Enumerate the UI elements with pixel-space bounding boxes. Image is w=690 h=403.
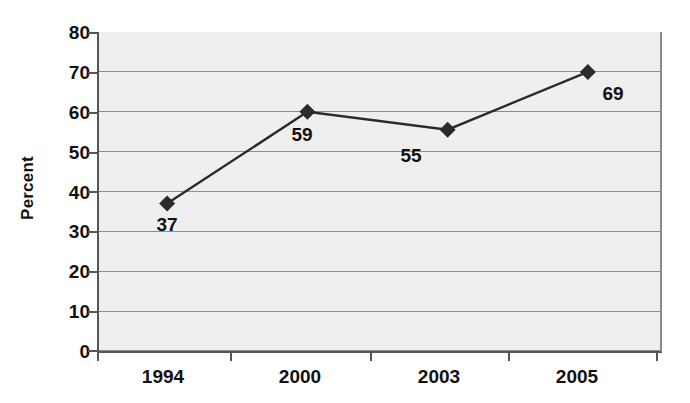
x-tick-label-2003: 2003	[379, 366, 499, 388]
x-axis-tick-mark	[656, 351, 658, 361]
data-point-label: 55	[381, 145, 441, 167]
data-point-label: 59	[272, 124, 332, 146]
x-axis-tick-mark	[508, 351, 510, 361]
x-tick-label-1994: 1994	[103, 366, 223, 388]
data-point-label: 69	[583, 83, 643, 105]
data-point-label: 37	[137, 214, 197, 236]
data-point-marker[interactable]	[440, 122, 456, 138]
data-markers	[159, 64, 596, 212]
data-line	[167, 72, 588, 204]
series-layer	[0, 0, 690, 403]
x-tick-label-2000: 2000	[240, 366, 360, 388]
data-point-marker[interactable]	[299, 104, 315, 120]
x-axis-tick-mark	[370, 351, 372, 361]
data-point-marker[interactable]	[159, 195, 175, 211]
data-point-marker[interactable]	[580, 64, 596, 80]
chart-figure: Percent 80 70 60 50 40 30 20 10 0	[0, 0, 690, 403]
x-axis-tick-mark	[97, 351, 99, 361]
x-tick-label-2005: 2005	[517, 366, 637, 388]
x-axis-tick-mark	[230, 351, 232, 361]
